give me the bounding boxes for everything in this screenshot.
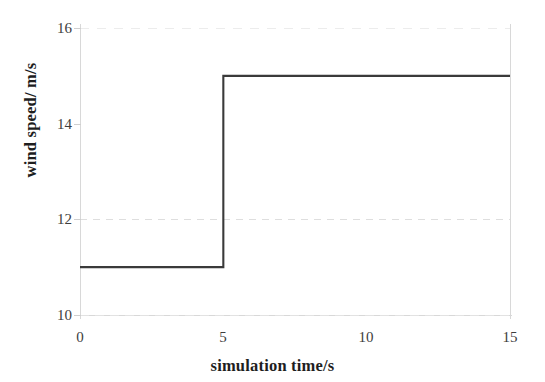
wind-speed-step-line: [80, 76, 510, 267]
wind-speed-step-chart: 16 14 12 10 0 5 10 15 wind speed/ m/s si…: [0, 0, 545, 382]
series-layer: [0, 0, 545, 382]
